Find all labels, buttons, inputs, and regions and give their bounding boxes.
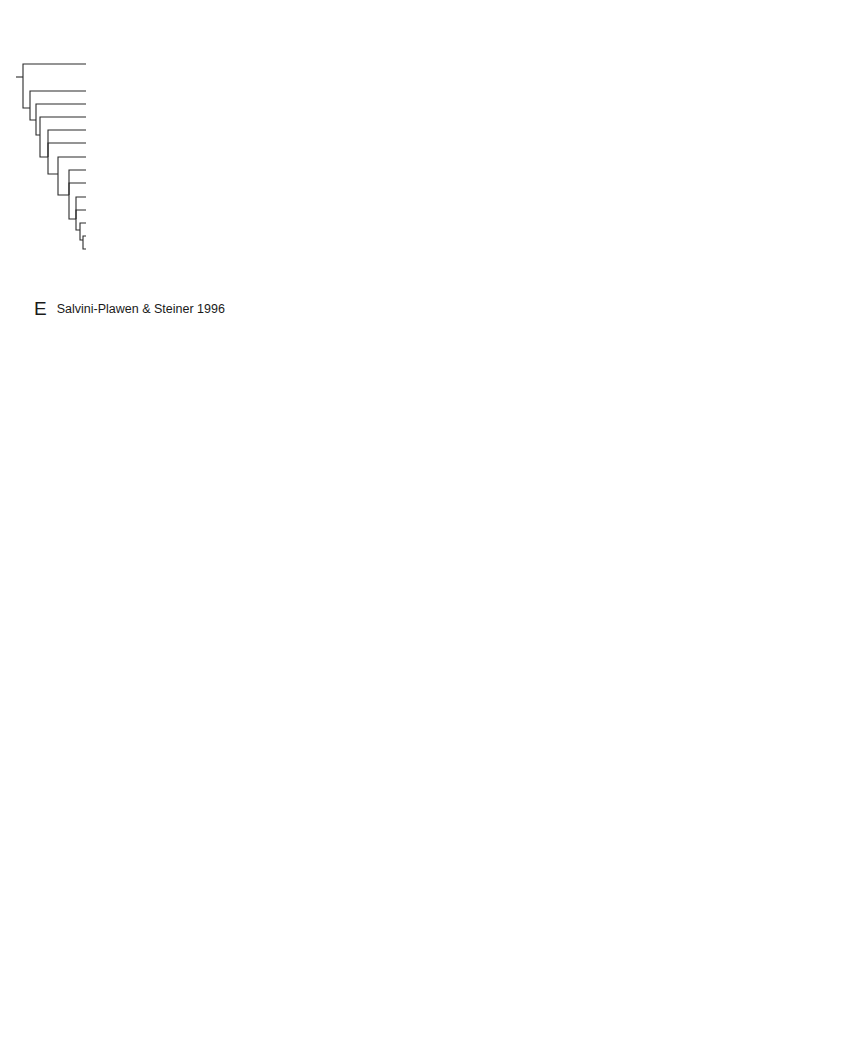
panel-letter-e: E — [34, 298, 47, 319]
tree-panel-g — [0, 470, 380, 1050]
tree-panel-f — [300, 0, 849, 520]
tree-panel-h — [360, 500, 849, 1050]
citation-e: Salvini-Plawen & Steiner 1996 — [57, 302, 225, 316]
caption-e: ESalvini-Plawen & Steiner 1996 — [34, 298, 225, 320]
